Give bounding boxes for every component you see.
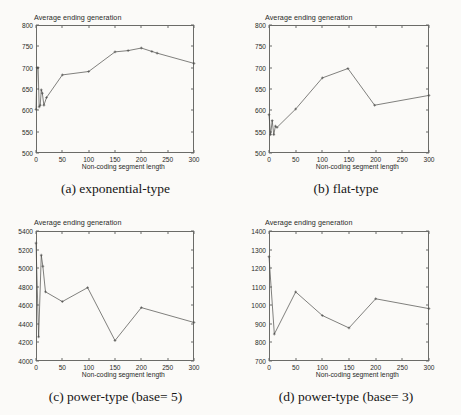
y-axis-label: Average ending generation (34, 13, 121, 22)
x-tick-label: 200 (370, 364, 381, 371)
panel-caption-a: (a) exponential-type (0, 181, 231, 197)
x-tick-label: 50 (59, 156, 66, 163)
x-tick-label: 0 (267, 364, 271, 371)
y-tick-label: 750 (22, 43, 33, 50)
y-tick-label: 500 (22, 150, 33, 157)
x-axis-label: Non-coding segment length (82, 371, 165, 378)
y-tick-label: 4000 (18, 358, 33, 365)
data-point-marker (272, 133, 275, 136)
y-tick-label: 1200 (251, 265, 266, 272)
x-tick-label: 250 (397, 156, 408, 163)
x-tick-label: 0 (34, 364, 38, 371)
y-tick-label: 4400 (18, 320, 33, 327)
x-axis-label: Non-coding segment length (82, 163, 165, 170)
chart-panel-d: Average ending generation 70080090010001… (231, 205, 461, 415)
y-tick-label: 5200 (18, 246, 33, 253)
y-tick-label: 600 (255, 107, 266, 114)
y-tick-label: 4800 (18, 283, 33, 290)
data-point-marker (86, 286, 89, 289)
data-point-marker (140, 47, 143, 50)
x-tick-label: 200 (136, 364, 147, 371)
data-series-line (36, 25, 194, 153)
data-point-marker (268, 113, 271, 116)
y-tick-label: 550 (255, 128, 266, 135)
plot-area-d: 70080090010001100120013001400 0501001502… (269, 231, 429, 361)
x-tick-label: 250 (397, 364, 408, 371)
x-tick-label: 50 (292, 156, 299, 163)
data-point-marker (40, 254, 43, 257)
x-tick-label: 0 (267, 156, 271, 163)
plot-area-a: 500550600650700750800 050100150200250300… (36, 25, 194, 153)
panel-caption-d: (d) power-type (base= 3) (231, 389, 461, 405)
data-point-marker (35, 108, 38, 111)
y-tick-label: 800 (255, 22, 266, 29)
y-tick-label: 600 (22, 107, 33, 114)
data-point-marker (150, 50, 153, 53)
x-tick-label: 100 (83, 156, 94, 163)
x-tick-label: 150 (343, 156, 354, 163)
data-point-marker (40, 88, 43, 91)
data-point-marker (273, 333, 276, 336)
y-tick-label: 550 (22, 128, 33, 135)
data-point-marker (428, 94, 431, 97)
plot-area-c: 40004200440046004800500052005400 0501001… (36, 231, 194, 361)
x-tick-label: 200 (136, 156, 147, 163)
y-tick-label: 4200 (18, 339, 33, 346)
y-axis-label: Average ending generation (265, 13, 352, 22)
x-tick-label: 150 (109, 364, 120, 371)
x-tick-label: 50 (59, 364, 66, 371)
y-tick-label: 650 (255, 86, 266, 93)
x-axis-label: Non-coding segment length (316, 371, 399, 378)
y-tick-label: 800 (22, 22, 33, 29)
data-point-marker (61, 300, 64, 303)
y-tick-label: 4600 (18, 302, 33, 309)
panel-caption-c: (c) power-type (base= 5) (0, 389, 231, 405)
data-point-marker (37, 335, 40, 338)
data-point-marker (269, 133, 272, 136)
data-series-line (36, 231, 194, 361)
x-tick-label: 300 (423, 364, 434, 371)
y-tick-label: 900 (255, 320, 266, 327)
x-tick-label: 200 (370, 156, 381, 163)
data-point-marker (35, 242, 38, 245)
x-axis-label: Non-coding segment length (316, 163, 399, 170)
series-polyline (36, 243, 194, 341)
data-point-marker (268, 255, 271, 258)
y-tick-label: 700 (255, 64, 266, 71)
series-polyline (269, 257, 429, 334)
chart-panel-c: Average ending generation 40004200440046… (0, 205, 231, 415)
x-tick-label: 0 (34, 156, 38, 163)
y-tick-label: 5000 (18, 265, 33, 272)
chart-panel-a: Average ending generation 50055060065070… (0, 0, 231, 205)
data-point-marker (193, 62, 196, 65)
y-tick-label: 1100 (252, 283, 266, 290)
x-tick-label: 150 (109, 156, 120, 163)
x-tick-label: 250 (162, 364, 173, 371)
y-tick-label: 800 (255, 339, 266, 346)
chart-panel-b: Average ending generation 50055060065070… (231, 0, 461, 205)
y-tick-label: 5400 (18, 228, 33, 235)
x-tick-label: 150 (343, 364, 354, 371)
y-tick-label: 1400 (251, 228, 266, 235)
data-point-marker (193, 321, 196, 324)
series-polyline (36, 48, 194, 109)
data-point-marker (43, 104, 46, 107)
x-tick-label: 100 (317, 364, 328, 371)
data-point-marker (156, 52, 159, 55)
data-point-marker (127, 49, 130, 52)
x-tick-label: 300 (188, 156, 199, 163)
data-point-marker (428, 307, 431, 310)
y-tick-label: 500 (255, 150, 266, 157)
data-point-marker (41, 265, 44, 268)
x-tick-label: 250 (162, 156, 173, 163)
data-series-line (269, 231, 429, 361)
x-tick-label: 300 (188, 364, 199, 371)
y-tick-label: 750 (255, 43, 266, 50)
data-point-marker (44, 290, 47, 293)
data-point-marker (271, 119, 274, 122)
plot-area-b: 500550600650700750800 050100150200250300… (269, 25, 429, 153)
x-tick-label: 50 (292, 364, 299, 371)
y-axis-label: Average ending generation (34, 218, 121, 227)
series-polyline (269, 69, 429, 135)
y-axis-label: Average ending generation (265, 218, 352, 227)
